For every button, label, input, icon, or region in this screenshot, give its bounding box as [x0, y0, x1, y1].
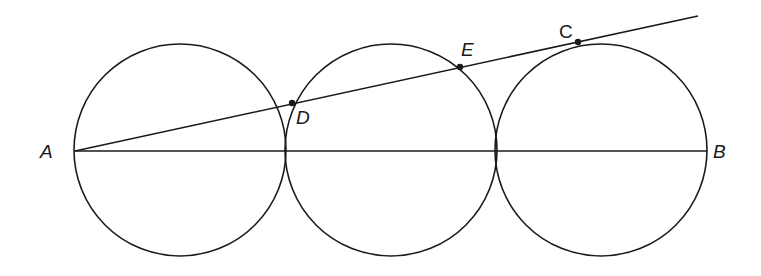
label-a: A: [39, 141, 53, 162]
circle-2: [285, 44, 497, 256]
circle-1: [74, 44, 286, 256]
circles-group: [74, 44, 707, 256]
point-c-dot: [575, 39, 581, 45]
label-c: C: [559, 21, 573, 42]
point-d-dot: [289, 100, 295, 106]
label-b: B: [713, 141, 726, 162]
circle-3: [495, 44, 707, 256]
label-e: E: [461, 39, 474, 60]
label-d: D: [296, 107, 310, 128]
geometry-figure: A B C D E: [0, 0, 761, 276]
tangent-line-ac: [75, 16, 698, 151]
point-e-dot: [457, 64, 463, 70]
